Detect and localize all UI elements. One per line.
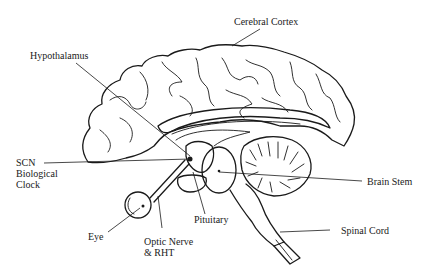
label-optic-nerve-rht: Optic Nerve & RHT <box>144 236 193 258</box>
sulcus <box>100 130 110 152</box>
optic-nerve <box>150 160 189 202</box>
spinal-cord <box>274 242 300 264</box>
label-optic-nerve-line2: & RHT <box>144 247 193 258</box>
label-optic-nerve-line1: Optic Nerve <box>144 236 193 247</box>
sulcus <box>162 62 182 96</box>
leader-spinal-cord <box>280 230 330 232</box>
label-cerebral-cortex: Cerebral Cortex <box>234 16 298 27</box>
sulcus <box>110 97 146 110</box>
eye-dot <box>142 205 145 208</box>
sulcus <box>290 62 312 110</box>
sulcus <box>226 90 252 118</box>
label-scn-line3: Clock <box>16 179 58 190</box>
leader-optic-nerve <box>158 196 162 228</box>
cerebrum-outline <box>83 45 355 163</box>
sulcus <box>140 72 148 100</box>
brain-diagram: Cerebral Cortex Hypothalamus SCN Biologi… <box>0 0 427 269</box>
eye-lens <box>128 198 134 214</box>
sulcus <box>246 60 280 96</box>
cerebellum-folia <box>246 142 304 192</box>
leader-scn <box>44 159 190 163</box>
label-brain-stem: Brain Stem <box>367 176 412 187</box>
label-scn-line2: Biological <box>16 168 58 179</box>
sulcus <box>120 118 132 142</box>
label-hypothalamus: Hypothalamus <box>30 50 88 61</box>
leader-eye <box>108 208 140 232</box>
label-spinal-cord: Spinal Cord <box>341 225 389 236</box>
label-scn-line1: SCN <box>16 157 58 168</box>
brain-stem <box>230 184 284 246</box>
pituitary-gland <box>178 175 207 192</box>
label-eye: Eye <box>88 231 104 242</box>
label-pituitary: Pituitary <box>194 214 228 225</box>
label-scn-biological-clock: SCN Biological Clock <box>16 157 58 190</box>
leader-cerebral-cortex <box>232 29 260 46</box>
sulcus <box>196 58 214 106</box>
fornix <box>176 130 250 146</box>
eyeball <box>125 192 151 218</box>
sulcus <box>222 58 258 84</box>
